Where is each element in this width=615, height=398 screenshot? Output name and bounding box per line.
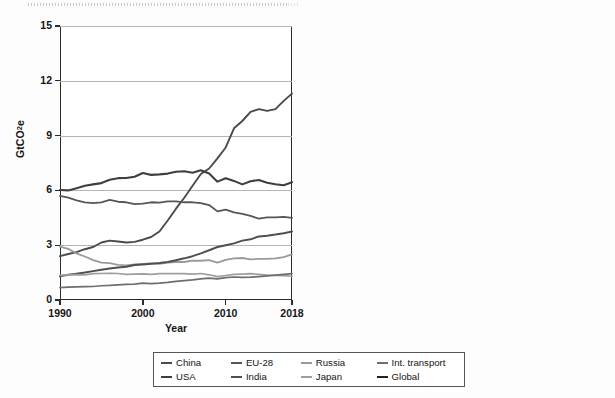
legend-label: China: [176, 358, 201, 368]
y-tick-mark-15: [55, 25, 60, 26]
chart-panel-per-capita-emissions: tCO2e per capita Year 051015202519902000…: [307, 0, 615, 345]
y-tick-label-15: 15: [12, 19, 52, 31]
legend-swatch-icon: [377, 376, 388, 378]
y-tick-mark-3: [55, 245, 60, 246]
x-tick-label-1990: 1990: [35, 307, 85, 319]
plot-area-left: [60, 26, 292, 300]
legend-item-india[interactable]: India: [231, 372, 301, 382]
legend-item-russia[interactable]: Russia: [301, 358, 377, 368]
x-axis-label-left: Year: [116, 322, 236, 334]
legend-swatch-icon: [301, 376, 312, 378]
legend-swatch-icon: [231, 362, 242, 364]
series-line-russia: [60, 247, 292, 266]
x-tick-mark-1990: [59, 300, 60, 305]
y-tick-label-0: 0: [12, 293, 52, 305]
chart-panel-absolute-emissions: GtCO2e Year 036912151990200020102018: [0, 0, 307, 345]
series-line-china: [60, 94, 292, 257]
legend-label: India: [246, 372, 267, 382]
legend-item-usa[interactable]: USA: [161, 372, 231, 382]
legend-item-int-transport[interactable]: Int. transport: [377, 358, 464, 368]
legend-swatch-icon: [161, 362, 172, 364]
y-tick-label-9: 9: [12, 129, 52, 141]
legend-swatch-icon: [161, 376, 172, 378]
y-tick-mark-6: [55, 190, 60, 191]
y-tick-mark-9: [55, 135, 60, 136]
series-line-int-transport: [60, 274, 292, 288]
series-layer: [60, 26, 292, 300]
legend-item-global[interactable]: Global: [377, 372, 464, 382]
x-tick-label-2000: 2000: [118, 307, 168, 319]
x-tick-mark-2018: [291, 300, 292, 305]
legend-swatch-icon: [377, 362, 388, 364]
legend-row-bottom: USAIndiaJapanGlobal: [154, 370, 464, 384]
legend-swatch-icon: [231, 376, 242, 378]
y-tick-mark-12: [55, 80, 60, 81]
legend-label: Global: [392, 372, 420, 382]
legend-label: USA: [176, 372, 196, 382]
y-tick-label-12: 12: [12, 74, 52, 86]
y-tick-label-6: 6: [12, 183, 52, 195]
legend-item-eu-28[interactable]: EU-28: [231, 358, 301, 368]
legend-item-china[interactable]: China: [161, 358, 231, 368]
legend-row-top: ChinaEU-28RussiaInt. transport: [154, 356, 464, 370]
x-tick-mark-2010: [225, 300, 226, 305]
legend-label: EU-28: [246, 358, 273, 368]
series-line-usa: [60, 170, 292, 190]
series-line-india: [60, 232, 292, 277]
legend-swatch-icon: [301, 362, 312, 364]
legend-label: Int. transport: [392, 358, 446, 368]
chart-legend: ChinaEU-28RussiaInt. transport USAIndiaJ…: [153, 352, 465, 387]
figure-container: GtCO2e Year 036912151990200020102018 tCO…: [0, 0, 615, 398]
legend-label: Russia: [316, 358, 345, 368]
legend-item-japan[interactable]: Japan: [301, 372, 377, 382]
y-tick-label-3: 3: [12, 238, 52, 250]
legend-label: Japan: [316, 372, 342, 382]
x-tick-mark-2000: [142, 300, 143, 305]
x-tick-label-2010: 2010: [201, 307, 251, 319]
